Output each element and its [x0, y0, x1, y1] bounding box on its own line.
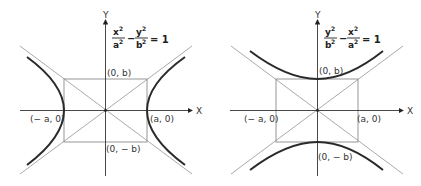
svg-text:2: 2: [331, 38, 335, 45]
origin-point: [104, 109, 107, 112]
svg-text:−: −: [127, 33, 135, 44]
svg-text:2: 2: [119, 38, 123, 45]
covertex-bottom-label: (0, − b): [318, 152, 353, 162]
hyperbola-right-branch: [147, 57, 185, 165]
figure-vertical-hyperbola: Y X (0, b) (0, − b) (− a, 0) (a, 0) y 2 …: [230, 10, 413, 176]
svg-text:2: 2: [119, 25, 123, 32]
svg-text:= 1: = 1: [150, 34, 169, 45]
vertex-right-label: (a, 0): [357, 114, 381, 124]
equation: y 2 b 2 − x 2 a 2 = 1: [324, 25, 381, 50]
equation: x 2 a 2 − y 2 b 2 = 1: [112, 25, 169, 50]
covertex-top-label: (0, b): [319, 66, 343, 76]
hyperbola-diagrams: Y X (0, b) (0, − b) (− a, 0) (a, 0) x 2 …: [0, 0, 421, 186]
x-axis-label: X: [196, 106, 202, 116]
svg-text:2: 2: [142, 25, 146, 32]
svg-text:2: 2: [142, 38, 146, 45]
svg-text:−: −: [339, 33, 347, 44]
svg-text:2: 2: [354, 38, 358, 45]
x-axis-label: X: [407, 106, 413, 116]
svg-text:= 1: = 1: [362, 34, 381, 45]
origin-point: [316, 109, 319, 112]
svg-text:2: 2: [354, 25, 358, 32]
vertex-left-label: (− a, 0): [244, 114, 278, 124]
hyperbola-bottom-branch: [250, 142, 383, 170]
vertex-left-label: (− a, 0): [30, 114, 64, 124]
svg-text:2: 2: [331, 25, 335, 32]
vertex-right-label: (a, 0): [150, 114, 174, 124]
hyperbola-left-branch: [27, 57, 64, 165]
figure-horizontal-hyperbola: Y X (0, b) (0, − b) (− a, 0) (a, 0) x 2 …: [20, 10, 202, 176]
covertex-top-label: (0, b): [107, 68, 131, 78]
y-axis-label: Y: [314, 10, 321, 20]
y-axis-label: Y: [102, 10, 109, 20]
covertex-bottom-label: (0, − b): [106, 144, 141, 154]
